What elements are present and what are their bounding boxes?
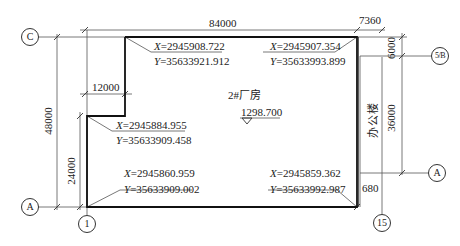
dim-6000: 6000 <box>385 37 397 59</box>
coord-top-left: X=2945908.722 <box>154 40 225 52</box>
dim-24000: 24000 <box>65 157 77 185</box>
axis-bubble-1: 1 <box>78 215 96 233</box>
axis-bubble-15: 15 <box>373 214 391 232</box>
elevation-value: 1298.700 <box>241 106 282 118</box>
coord-bottom-left: X=2945860.959 <box>124 167 195 179</box>
office-label: 办公楼 <box>367 102 379 138</box>
axis-bubble-5b: 5/B <box>431 47 449 65</box>
coord-bottom-right: X=2945859.362 <box>270 167 341 179</box>
dim-36000: 36000 <box>385 104 397 132</box>
coord-top-right-y: Y=35633993.899 <box>270 55 346 67</box>
axis-bubble-c: C <box>21 28 39 46</box>
dim-12000: 12000 <box>92 81 120 93</box>
coord-top-right: X=2945907.354 <box>270 40 341 52</box>
elevation-marker-icon <box>242 118 252 124</box>
dim-680: 680 <box>362 182 379 194</box>
dim-84000: 84000 <box>209 17 237 29</box>
dim-7360: 7360 <box>359 14 381 26</box>
coord-top-left-y: Y=35633921.912 <box>154 55 230 67</box>
coord-bottom-left-y: Y=35633909.002 <box>124 183 200 195</box>
coord-notch-y: Y=35633909.458 <box>116 134 192 146</box>
axis-bubble-a-right: A <box>428 164 446 182</box>
coord-notch: X=2945884.955 <box>116 119 187 131</box>
dim-48000: 48000 <box>42 107 54 135</box>
building-label: 2#厂房 <box>228 89 261 101</box>
coord-bottom-right-y: Y=35633992.987 <box>270 183 346 195</box>
axis-bubble-a-left: A <box>21 198 39 216</box>
